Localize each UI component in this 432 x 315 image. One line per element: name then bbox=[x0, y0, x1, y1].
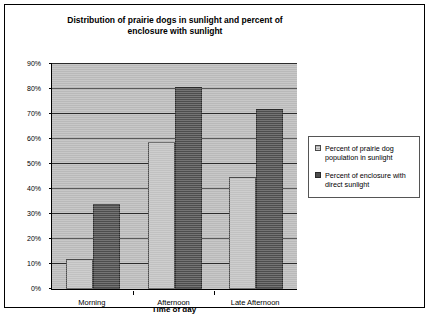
x-axis-title: Time of day bbox=[51, 305, 297, 314]
y-axis-tick-mark bbox=[49, 63, 52, 64]
gridline bbox=[52, 63, 297, 64]
chart-legend: Percent of prairie dog population in sun… bbox=[308, 136, 420, 198]
legend-item-label: Percent of enclosure with direct sunligh… bbox=[325, 171, 414, 189]
y-axis-tick-label: 60% bbox=[0, 135, 41, 142]
bar-afternoon-series-1 bbox=[148, 142, 175, 290]
x-axis-tick-mark bbox=[133, 291, 134, 295]
y-axis-tick-mark bbox=[49, 113, 52, 114]
y-axis-tick-label: 20% bbox=[0, 235, 41, 242]
y-axis-tick-mark bbox=[49, 88, 52, 89]
plot-area bbox=[51, 64, 297, 290]
y-axis-tick-mark bbox=[49, 288, 52, 289]
y-axis-tick-label: 50% bbox=[0, 160, 41, 167]
legend-swatch-icon bbox=[315, 172, 321, 178]
legend-item-label: Percent of prairie dog population in sun… bbox=[325, 144, 414, 162]
bar-morning-series-1 bbox=[66, 259, 93, 289]
bar-afternoon-series-2 bbox=[175, 87, 202, 290]
y-axis-tick-mark bbox=[49, 263, 52, 264]
y-axis-tick-label: 30% bbox=[0, 210, 41, 217]
chart-title: Distribution of prairie dogs in sunlight… bbox=[51, 15, 299, 37]
y-axis-tick-mark bbox=[49, 188, 52, 189]
y-axis-tick-mark bbox=[49, 163, 52, 164]
legend-item-1: Percent of prairie dog population in sun… bbox=[314, 144, 414, 162]
y-axis-tick-label: 90% bbox=[0, 60, 41, 67]
y-axis-tick-label: 80% bbox=[0, 85, 41, 92]
y-axis-tick-mark bbox=[49, 238, 52, 239]
x-axis-tick-mark bbox=[214, 291, 215, 295]
bar-morning-series-2 bbox=[93, 204, 120, 289]
chart-frame: Distribution of prairie dogs in sunlight… bbox=[4, 4, 425, 308]
legend-item-2: Percent of enclosure with direct sunligh… bbox=[314, 171, 414, 189]
bar-late-afternoon-series-1 bbox=[229, 177, 256, 290]
legend-swatch-icon bbox=[315, 145, 321, 151]
y-axis-tick-mark bbox=[49, 213, 52, 214]
y-axis-tick-label: 10% bbox=[0, 260, 41, 267]
y-axis-tick-mark bbox=[49, 138, 52, 139]
bar-late-afternoon-series-2 bbox=[256, 109, 283, 289]
y-axis-tick-label: 0% bbox=[0, 285, 41, 292]
y-axis-tick-label: 40% bbox=[0, 185, 41, 192]
y-axis-tick-label: 70% bbox=[0, 110, 41, 117]
